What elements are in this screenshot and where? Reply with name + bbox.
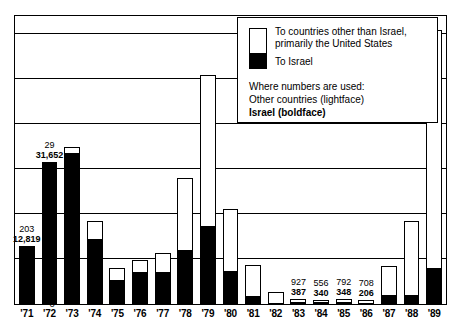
x-tick-label-y85: '85	[332, 308, 355, 319]
data-label-y71: 20312,819	[13, 224, 41, 244]
segment-other-countries	[64, 147, 80, 154]
segment-israel	[313, 303, 329, 305]
x-tick-label-y81: '81	[242, 308, 265, 319]
x-tick-label-y83: '83	[287, 308, 310, 319]
segment-israel	[177, 251, 193, 304]
segment-israel	[155, 273, 171, 305]
segment-other-countries	[155, 253, 171, 273]
legend-label-other: To countries other than Israel, primaril…	[275, 26, 431, 50]
x-tick-label-y89: '89	[423, 308, 446, 319]
legend-swatch	[249, 28, 267, 69]
x-tick-label-y73: '73	[61, 308, 84, 319]
bar-y78	[177, 178, 193, 304]
segment-israel	[358, 303, 374, 305]
x-tick-label-y80: '80	[219, 308, 242, 319]
bar-y88	[404, 221, 420, 305]
x-tick-label-y72: '72	[38, 308, 61, 319]
data-label-israel: 340	[314, 288, 329, 298]
x-tick-label-y74: '74	[83, 308, 106, 319]
data-label-y83: 927387	[291, 277, 306, 297]
segment-israel	[200, 227, 216, 304]
x-tick-label-y84: '84	[310, 308, 333, 319]
data-label-israel: 348	[336, 287, 351, 297]
bar-y87	[381, 266, 397, 304]
segment-israel	[42, 162, 58, 304]
legend-label-israel: To Israel	[275, 56, 313, 68]
bar-y76	[132, 260, 148, 305]
segment-other-countries	[404, 221, 420, 296]
bar-y82	[268, 292, 284, 304]
x-tick-label-y86: '86	[355, 308, 378, 319]
chart-root: 010,00020,00030,00040,00050,00060,000 20…	[0, 0, 461, 335]
bar-y71	[19, 246, 35, 305]
segment-other-countries	[200, 75, 216, 227]
data-label-other: 29	[36, 140, 64, 150]
x-tick-label-y79: '79	[197, 308, 220, 319]
segment-israel	[336, 303, 352, 305]
data-label-israel: 31,652	[36, 150, 64, 160]
segment-israel	[132, 273, 148, 304]
x-tick-label-y77: '77	[151, 308, 174, 319]
x-tick-label-y71: '71	[16, 308, 39, 319]
data-label-other: 792	[336, 277, 351, 287]
data-label-israel: 387	[291, 287, 306, 297]
segment-israel	[404, 296, 420, 305]
segment-other-countries	[223, 209, 239, 272]
data-label-other: 556	[314, 278, 329, 288]
x-tick-label-y78: '78	[174, 308, 197, 319]
segment-israel	[109, 281, 125, 304]
segment-israel	[426, 269, 442, 305]
segment-other-countries	[245, 265, 261, 297]
data-label-other: 927	[291, 277, 306, 287]
bar-y79	[200, 75, 216, 305]
x-tick-label-y75: '75	[106, 308, 129, 319]
x-tick-label-y88: '88	[400, 308, 423, 319]
segment-other-countries	[109, 268, 125, 281]
segment-israel	[64, 154, 80, 305]
bar-y85	[336, 299, 352, 304]
bar-y81	[245, 265, 261, 305]
x-tick-label-y76: '76	[129, 308, 152, 319]
legend-note-heading: Where numbers are used:	[249, 80, 431, 93]
segment-israel	[268, 303, 284, 305]
bar-y83	[290, 299, 306, 305]
bar-y77	[155, 253, 171, 305]
data-label-y85: 792348	[336, 277, 351, 297]
bar-y73	[64, 147, 80, 305]
legend-note-line2: Israel (boldface)	[249, 106, 431, 119]
segment-israel	[19, 247, 35, 305]
legend-swatch-israel	[250, 53, 266, 68]
bar-y80	[223, 209, 239, 305]
segment-israel	[381, 296, 397, 305]
data-label-israel: 206	[359, 288, 374, 298]
bar-y72	[42, 162, 58, 305]
legend-note: Where numbers are used: Other countries …	[249, 80, 431, 119]
segment-other-countries	[177, 178, 193, 251]
segment-israel	[245, 297, 261, 305]
bar-y74	[87, 221, 103, 304]
data-label-other: 203	[13, 224, 41, 234]
segment-israel	[87, 240, 103, 304]
segment-other-countries	[132, 260, 148, 274]
x-tick-label-y87: '87	[378, 308, 401, 319]
segment-israel	[223, 272, 239, 304]
bar-y84	[313, 300, 329, 304]
data-label-y72: 2931,652	[36, 140, 64, 160]
legend-box: To countries other than Israel, primaril…	[237, 17, 438, 123]
data-label-israel: 12,819	[13, 234, 41, 244]
segment-other-countries	[87, 221, 103, 240]
data-label-other: 708	[359, 278, 374, 288]
segment-other-countries	[381, 266, 397, 295]
legend-note-line1: Other countries (lightface)	[249, 93, 431, 106]
data-label-y84: 556340	[314, 278, 329, 298]
data-label-y86: 708206	[359, 278, 374, 298]
bar-y75	[109, 268, 125, 304]
segment-israel	[290, 303, 306, 305]
bar-y86	[358, 300, 374, 304]
x-tick-label-y82: '82	[264, 308, 287, 319]
x-axis-labels: '71'72'73'74'75'76'77'78'79'80'81'82'83'…	[16, 308, 446, 330]
